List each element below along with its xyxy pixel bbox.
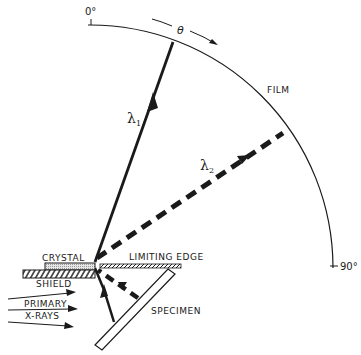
- limiting-edge-label: LIMITING EDGE: [129, 252, 204, 262]
- crystal-label: CRYSTAL: [42, 253, 85, 263]
- ninety-degree-label: 90°: [340, 261, 358, 272]
- film-label: FILM: [267, 85, 290, 95]
- primary-label: PRIMARY: [24, 299, 67, 309]
- xrays-label: X-RAYS: [25, 311, 60, 321]
- limiting-edge: [100, 264, 181, 268]
- specimen-label: SPECIMEN: [151, 306, 201, 316]
- diagram-canvas: 0° 90° θ FILM λ1 λ2 CRYSTAL SHIELD LIMI: [0, 0, 361, 355]
- zero-degree-label: 0°: [85, 6, 96, 17]
- lambda1-label: λ1: [127, 110, 141, 128]
- theta-arrow: [152, 19, 218, 45]
- crystal: [45, 263, 95, 270]
- film-arc: [88, 25, 333, 268]
- beam-lambda2: [97, 133, 283, 258]
- shield-label: SHIELD: [36, 279, 72, 289]
- lambda2-label: λ2: [200, 157, 214, 175]
- theta-label: θ: [177, 24, 184, 37]
- shield: [23, 270, 95, 278]
- beam-specimen-to-crystal-solid: [95, 268, 114, 322]
- beam-lambda1: [95, 42, 173, 262]
- beam-lambda1-arrowhead: [147, 92, 158, 112]
- primary-xrays-arrows: [8, 289, 78, 329]
